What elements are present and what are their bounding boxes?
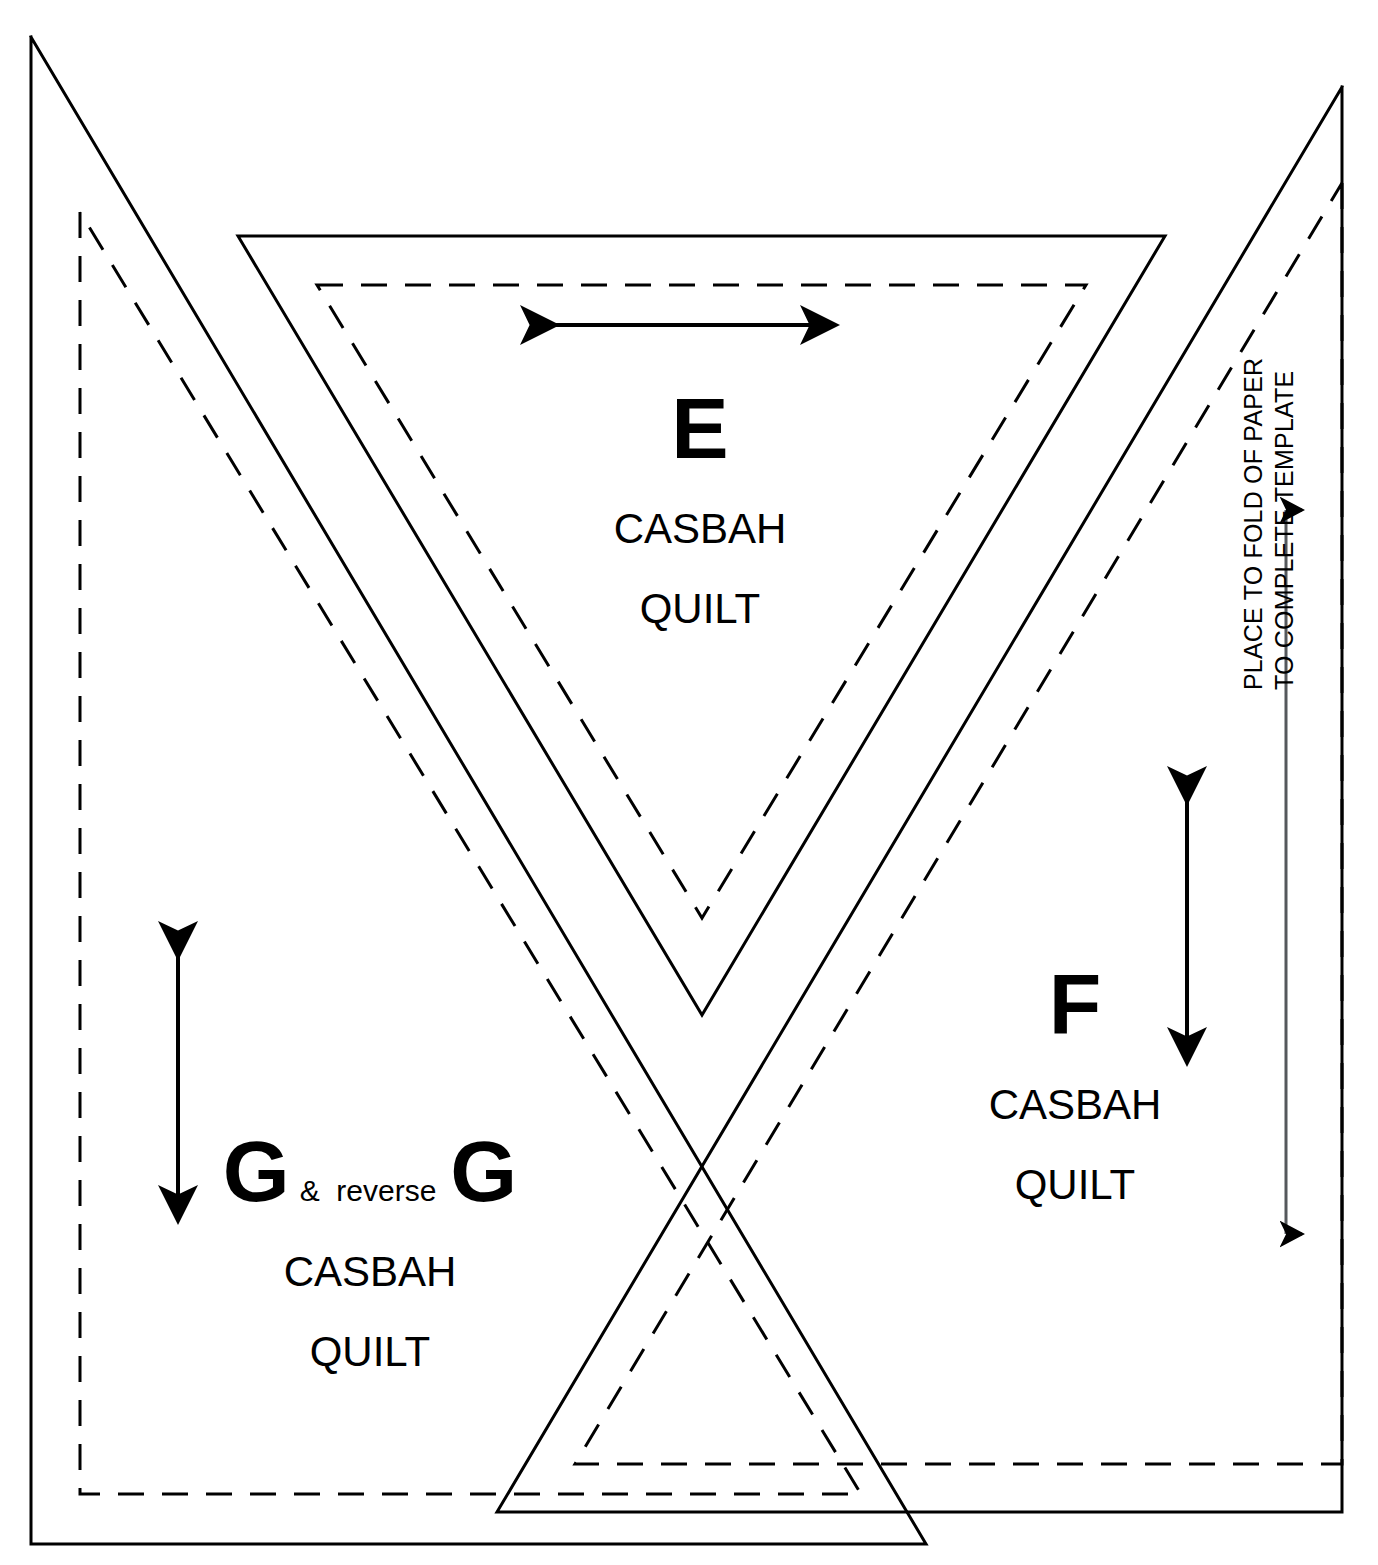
template-g-letter-right: G [450,1128,517,1214]
template-g-name-line2: QUILT [190,1328,550,1375]
fold-instruction: PLACE TO FOLD OF PAPER TO COMPLETE TEMPL… [1238,310,1301,690]
template-g-reverse-note: & reverse [290,1176,451,1206]
template-f-label: F CASBAH QUILT [930,928,1220,1241]
template-f-letter: F [930,961,1220,1047]
template-g-label: G & reverse G CASBAH QUILT [190,1095,550,1408]
f-cutting-line [497,87,1342,1512]
template-g-letter-row: G & reverse G [190,1128,550,1214]
template-f-name-line2: QUILT [930,1161,1220,1208]
fold-instruction-line1: PLACE TO FOLD OF PAPER [1238,310,1269,690]
template-g-letter-left: G [223,1128,290,1214]
fold-instruction-line2: TO COMPLETE TEMPLATE [1269,310,1300,690]
template-e-label: E CASBAH QUILT [540,352,860,665]
template-f-name-line1: CASBAH [930,1081,1220,1128]
template-g-name-line1: CASBAH [190,1248,550,1295]
template-e-letter: E [540,385,860,471]
template-e-name-line2: QUILT [540,585,860,632]
template-sheet: E CASBAH QUILT F CASBAH QUILT G & revers… [0,0,1378,1565]
template-e-name-line1: CASBAH [540,505,860,552]
